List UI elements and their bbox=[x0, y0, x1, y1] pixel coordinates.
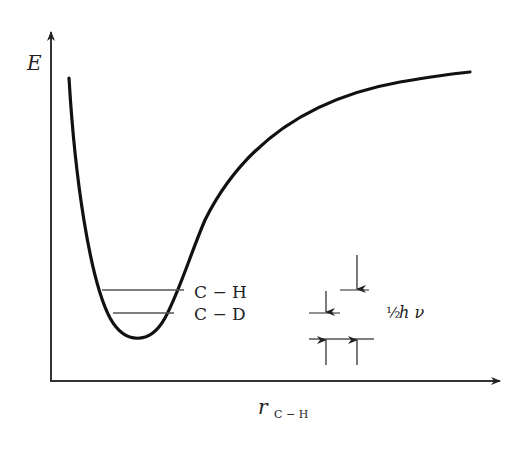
x-axis-label: r bbox=[258, 395, 269, 419]
level-label-c-h: C − H bbox=[194, 282, 247, 302]
y-axis-label: E bbox=[26, 51, 42, 75]
zero-point-annotation: ½ h ν bbox=[309, 255, 424, 365]
x-axis-subscript: C − H bbox=[274, 408, 308, 421]
potential-energy-diagram: C − H C − D ½ h ν E r C − H bbox=[0, 0, 527, 451]
potential-curve bbox=[69, 72, 470, 338]
h-nu-label: h ν bbox=[399, 303, 424, 322]
level-label-c-d: C − D bbox=[194, 304, 246, 324]
